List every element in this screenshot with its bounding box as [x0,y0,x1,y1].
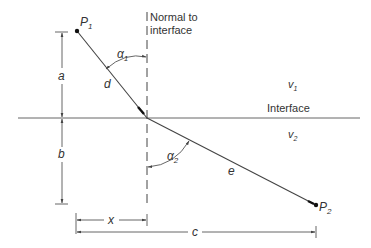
incident-ray [77,31,147,118]
refraction-diagram: P1 P2 Normal to interface Interface v1 v… [0,0,371,248]
normal-label-line2: interface [150,24,192,36]
refracted-arrowhead [308,201,314,204]
label-alpha2: α2 [167,149,179,165]
label-d: d [104,77,111,91]
point-p2 [314,203,318,207]
label-a: a [58,69,65,83]
label-b: b [58,147,65,161]
label-p1: P1 [80,15,92,31]
label-v2: v2 [288,128,298,142]
interface-label: Interface [267,102,310,114]
label-p2: P2 [319,200,332,216]
point-p1 [75,29,79,33]
label-v1: v1 [288,78,298,92]
normal-label-line1: Normal to [150,11,198,23]
incident-arrowhead [138,107,144,114]
label-e: e [228,164,235,178]
label-x: x [107,213,115,227]
label-alpha1: α1 [117,47,128,63]
label-c: c [192,225,198,239]
